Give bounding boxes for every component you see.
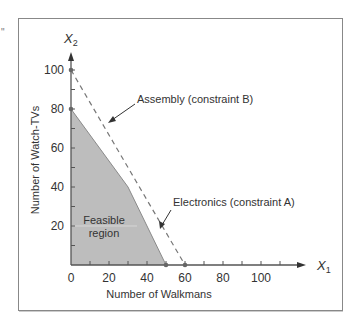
feasible-region (71, 109, 166, 265)
chart-frame (19, 19, 343, 311)
x-axis-title: Number of Walkmans (106, 288, 212, 300)
point-0-80 (69, 107, 74, 112)
x-tick-label-0: 0 (68, 271, 75, 285)
x-tick-label-100: 100 (251, 271, 271, 285)
x-axis-arrow-icon (297, 262, 306, 268)
point-60-0 (183, 263, 188, 268)
x-tick-label-40: 40 (140, 271, 154, 285)
y-var-label: X2 (63, 31, 78, 48)
y-tick-label-40: 40 (51, 180, 65, 194)
corner-mark: " (1, 27, 5, 38)
electronics-pointer (162, 210, 171, 225)
assembly-pointer (112, 104, 135, 120)
y-tick-label-20: 20 (51, 219, 65, 233)
assembly-arrowhead-icon (108, 116, 116, 123)
y-tick-label-100: 100 (44, 63, 64, 77)
electronics-annotation: Electronics (constraint A) (173, 196, 295, 208)
x-tick-label-60: 60 (178, 271, 192, 285)
y-axis-title: Number of Watch-TVs (29, 105, 41, 214)
point-50-0 (164, 263, 169, 268)
feasible-region-label-line2: region (89, 227, 120, 239)
y-tick-label-60: 60 (51, 141, 65, 155)
assembly-annotation: Assembly (constraint B) (137, 93, 253, 105)
feasible-region-label-line1: Feasible (83, 214, 125, 226)
x-tick-label-80: 80 (216, 271, 230, 285)
x-tick-label-20: 20 (102, 271, 116, 285)
y-axis-arrow-icon (68, 52, 74, 61)
chart-figure: " 20 (0, 0, 358, 328)
point-0-100 (69, 68, 74, 73)
x-var-label: X1 (316, 258, 331, 275)
y-tick-label-80: 80 (51, 102, 65, 116)
